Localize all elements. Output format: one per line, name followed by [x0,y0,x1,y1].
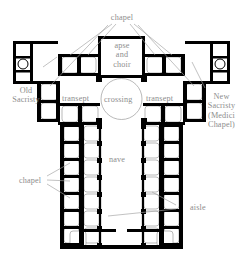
apse-line-2: and [116,50,128,59]
label-chapel-top: chapel [100,13,144,22]
transept-chapel-top-3 [147,57,163,73]
transept-chapel-bot-3 [145,106,161,122]
old-sacristy-line-2: Sacristy [12,95,40,104]
right-aisle-band [144,126,159,243]
new-sacristy-line-2: Sacristy [208,101,236,110]
label-transept-left: transept [62,94,89,103]
label-old-sacristy: Old Sacristy [2,86,50,105]
label-aisle: aisle [190,203,206,212]
transept-chapel-top-2 [80,57,96,73]
label-transept-right: transept [146,94,173,103]
label-chapel-left: chapel [19,176,41,185]
transept-chapel-bot-2 [82,106,98,122]
transept-chapel-bot-4 [165,106,181,122]
floor-plan-figure: chapel apse and choir transept transept … [0,0,243,260]
label-apse-and-choir: apse and choir [103,41,141,69]
apse-line-1: apse [114,41,129,50]
transept-chapel-top-4 [165,57,181,73]
left-aisle-band [84,126,99,243]
floor-plan-drawing [0,0,243,260]
old-sacristy-line-1: Old [20,86,33,95]
new-sacristy-line-3: (Medici [208,111,235,120]
label-new-sacristy: New Sacristy (Medici Chapel) [200,92,243,130]
new-sacristy-line-4: Chapel) [208,120,235,129]
transept-chapel-bot-1 [62,106,78,122]
nave-vault-lines [101,124,142,243]
new-sacristy-line-1: New [214,92,230,101]
transept-chapel-left-2 [41,103,57,119]
facade-bays [70,231,173,247]
label-nave: nave [109,155,125,164]
apse-line-3: choir [113,60,131,69]
label-crossing: crossing [104,95,133,104]
old-sacristy-plan [13,41,58,84]
new-sacristy-plan [185,41,230,84]
